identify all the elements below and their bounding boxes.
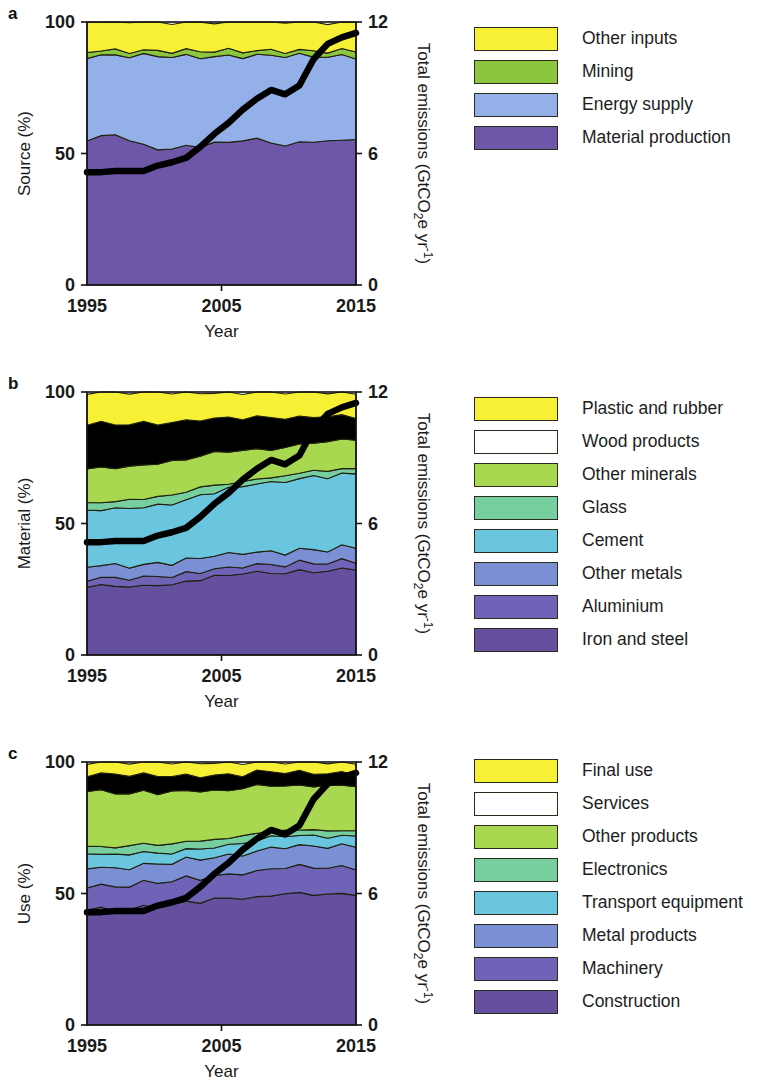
legend-label: Glass bbox=[582, 499, 627, 517]
x-tick-label: 2005 bbox=[201, 296, 241, 316]
legend-swatch bbox=[474, 891, 558, 915]
y-right-tick-label: 0 bbox=[368, 275, 378, 295]
legend-item: Final use bbox=[474, 754, 743, 787]
legend-label: Transport equipment bbox=[582, 894, 743, 912]
legend-label: Final use bbox=[582, 762, 653, 780]
x-tick-label: 1995 bbox=[67, 1036, 107, 1056]
legend-label: Cement bbox=[582, 532, 643, 550]
y-right-axis-title: Total emissions (GtCO2e yr-1) bbox=[411, 413, 435, 634]
legend-label: Other inputs bbox=[582, 30, 677, 48]
y-right-tick-label: 12 bbox=[368, 382, 388, 402]
legend-swatch bbox=[474, 825, 558, 849]
legend-swatch bbox=[474, 27, 558, 51]
legend-item: Metal products bbox=[474, 919, 743, 952]
legend-label: Other metals bbox=[582, 565, 682, 583]
legend-swatch bbox=[474, 858, 558, 882]
legend-swatch bbox=[474, 60, 558, 84]
legend-item: Material production bbox=[474, 121, 731, 154]
legend-swatch bbox=[474, 463, 558, 487]
chart-a-svg: 1005001260199520052015YearSource (%)Tota… bbox=[0, 0, 460, 340]
legend-swatch bbox=[474, 397, 558, 421]
legend-swatch bbox=[474, 93, 558, 117]
legend-label: Iron and steel bbox=[582, 631, 688, 649]
x-axis-title: Year bbox=[204, 322, 239, 340]
y-right-tick-label: 6 bbox=[368, 144, 378, 164]
y-left-axis-title: Source (%) bbox=[15, 111, 34, 196]
legend-swatch bbox=[474, 759, 558, 783]
y-left-tick-label: 100 bbox=[45, 12, 75, 32]
legend-item: Other minerals bbox=[474, 458, 723, 491]
legend-label: Metal products bbox=[582, 927, 697, 945]
chart-c: 1005001260199520052015YearUse (%)Total e… bbox=[0, 740, 460, 1080]
y-right-tick-label: 0 bbox=[368, 645, 378, 665]
legend-item: Construction bbox=[474, 985, 743, 1018]
legend-b: Plastic and rubberWood productsOther min… bbox=[474, 392, 723, 656]
legend-label: Plastic and rubber bbox=[582, 400, 723, 418]
legend-label: Energy supply bbox=[582, 96, 693, 114]
legend-item: Glass bbox=[474, 491, 723, 524]
y-left-tick-label: 0 bbox=[65, 645, 75, 665]
legend-item: Electronics bbox=[474, 853, 743, 886]
x-tick-label: 2015 bbox=[336, 296, 376, 316]
legend-item: Transport equipment bbox=[474, 886, 743, 919]
x-tick-label: 2015 bbox=[336, 666, 376, 686]
y-left-axis-title: Material (%) bbox=[15, 478, 34, 570]
x-axis-title: Year bbox=[204, 1062, 239, 1080]
legend-swatch bbox=[474, 562, 558, 586]
legend-label: Wood products bbox=[582, 433, 699, 451]
panel-a: a 1005001260199520052015YearSource (%)To… bbox=[0, 0, 764, 370]
legend-swatch bbox=[474, 924, 558, 948]
legend-swatch bbox=[474, 496, 558, 520]
legend-c: Final useServicesOther productsElectroni… bbox=[474, 754, 743, 1018]
legend-label: Electronics bbox=[582, 861, 668, 879]
y-right-tick-label: 12 bbox=[368, 12, 388, 32]
y-left-tick-label: 50 bbox=[55, 884, 75, 904]
legend-label: Mining bbox=[582, 63, 634, 81]
legend-item: Energy supply bbox=[474, 88, 731, 121]
y-right-axis-title: Total emissions (GtCO2e yr-1) bbox=[411, 783, 435, 1004]
legend-label: Services bbox=[582, 795, 649, 813]
legend-item: Aluminium bbox=[474, 590, 723, 623]
legend-swatch bbox=[474, 957, 558, 981]
y-right-tick-label: 6 bbox=[368, 514, 378, 534]
legend-item: Other metals bbox=[474, 557, 723, 590]
legend-swatch bbox=[474, 430, 558, 454]
legend-item: Other products bbox=[474, 820, 743, 853]
area-band bbox=[87, 22, 356, 54]
y-right-tick-label: 0 bbox=[368, 1015, 378, 1035]
chart-a: 1005001260199520052015YearSource (%)Tota… bbox=[0, 0, 460, 340]
x-tick-label: 2005 bbox=[201, 666, 241, 686]
x-axis-title: Year bbox=[204, 692, 239, 710]
legend-swatch bbox=[474, 529, 558, 553]
y-left-tick-label: 50 bbox=[55, 144, 75, 164]
y-left-tick-label: 50 bbox=[55, 514, 75, 534]
x-tick-label: 2015 bbox=[336, 1036, 376, 1056]
legend-label: Machinery bbox=[582, 960, 663, 978]
legend-item: Plastic and rubber bbox=[474, 392, 723, 425]
chart-c-svg: 1005001260199520052015YearUse (%)Total e… bbox=[0, 740, 460, 1080]
legend-swatch bbox=[474, 628, 558, 652]
area-band bbox=[87, 135, 356, 285]
x-tick-label: 2005 bbox=[201, 1036, 241, 1056]
legend-swatch bbox=[474, 792, 558, 816]
legend-item: Iron and steel bbox=[474, 623, 723, 656]
x-tick-label: 1995 bbox=[67, 296, 107, 316]
legend-item: Other inputs bbox=[474, 22, 731, 55]
x-tick-label: 1995 bbox=[67, 666, 107, 686]
y-left-tick-label: 0 bbox=[65, 275, 75, 295]
y-left-axis-title: Use (%) bbox=[15, 863, 34, 924]
y-left-tick-label: 100 bbox=[45, 382, 75, 402]
legend-a: Other inputsMiningEnergy supplyMaterial … bbox=[474, 22, 731, 154]
legend-item: Cement bbox=[474, 524, 723, 557]
panel-b: b 1005001260199520052015YearMaterial (%)… bbox=[0, 370, 764, 740]
legend-item: Machinery bbox=[474, 952, 743, 985]
panel-c: c 1005001260199520052015YearUse (%)Total… bbox=[0, 740, 764, 1090]
y-right-tick-label: 6 bbox=[368, 884, 378, 904]
legend-label: Aluminium bbox=[582, 598, 664, 616]
y-right-axis-title: Total emissions (GtCO2e yr-1) bbox=[411, 43, 435, 264]
chart-b-svg: 1005001260199520052015YearMaterial (%)To… bbox=[0, 370, 460, 710]
legend-swatch bbox=[474, 595, 558, 619]
legend-item: Services bbox=[474, 787, 743, 820]
y-right-tick-label: 12 bbox=[368, 752, 388, 772]
legend-label: Other minerals bbox=[582, 466, 697, 484]
